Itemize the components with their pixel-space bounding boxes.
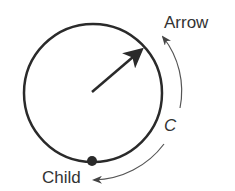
child-label: Child bbox=[42, 168, 81, 188]
main-circle bbox=[24, 24, 162, 162]
curve-label: C bbox=[164, 116, 176, 136]
pointer-arrow-icon bbox=[92, 51, 140, 92]
diagram-canvas: Arrow C Child bbox=[0, 0, 235, 191]
arrow-label: Arrow bbox=[164, 13, 208, 33]
curve-arrow-up-icon bbox=[163, 37, 182, 108]
child-dot-icon bbox=[87, 156, 97, 166]
